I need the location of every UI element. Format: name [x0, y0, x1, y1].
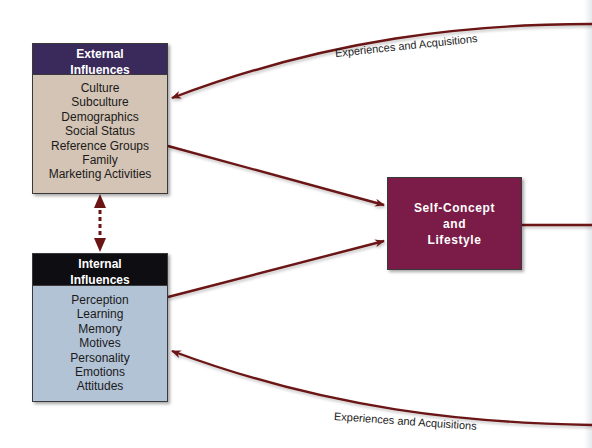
arrow-experiences-to-external — [172, 24, 592, 98]
arrowhead-down-icon — [94, 238, 106, 252]
list-item: Personality — [35, 351, 165, 365]
self-concept-lifestyle-box: Self-Concept and Lifestyle — [387, 177, 522, 270]
list-item: Attitudes — [35, 379, 165, 393]
arrow-external-to-self-concept — [168, 146, 384, 205]
external-influences-header: External Influences — [33, 44, 167, 75]
list-item: Learning — [35, 307, 165, 321]
self-concept-line1: Self-Concept — [414, 200, 495, 216]
list-item: Marketing Activities — [35, 167, 165, 181]
list-item: Demographics — [35, 110, 165, 124]
internal-title-line1: Internal — [37, 256, 163, 272]
external-influences-list: Culture Subculture Demographics Social S… — [33, 75, 167, 186]
list-item: Perception — [35, 293, 165, 307]
arrow-internal-to-self-concept — [168, 241, 384, 297]
external-influences-box: External Influences Culture Subculture D… — [32, 43, 168, 194]
list-item: Emotions — [35, 365, 165, 379]
bidirectional-dashed-arrow — [94, 194, 106, 252]
list-item: Memory — [35, 322, 165, 336]
internal-influences-list: Perception Learning Memory Motives Perso… — [33, 286, 167, 398]
list-item: Motives — [35, 336, 165, 350]
list-item: Family — [35, 153, 165, 167]
list-item: Reference Groups — [35, 139, 165, 153]
external-title-line1: External — [37, 46, 163, 62]
arrowhead-up-icon — [94, 194, 106, 208]
list-item: Subculture — [35, 95, 165, 109]
internal-influences-box: Internal Influences Perception Learning … — [32, 253, 168, 402]
self-concept-line2: and — [443, 216, 466, 232]
list-item: Culture — [35, 81, 165, 95]
internal-influences-header: Internal Influences — [33, 254, 167, 286]
self-concept-line3: Lifestyle — [427, 232, 481, 248]
list-item: Social Status — [35, 124, 165, 138]
